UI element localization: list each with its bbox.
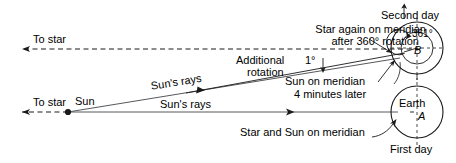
to-star-label-bottom: To star [33,96,66,108]
point-b-label: B [414,44,421,56]
star-and-sun-on-meridian-label: Star and Sun on meridian [240,126,365,138]
rotation-361-label: 361° [412,28,433,40]
sidereal-day-diagram: To star To star Sun Sun's rays Sun's ray… [0,0,456,163]
sun-label: Sun [75,95,95,107]
earth-label: Earth [399,97,425,109]
star-again-on-meridian-line2: after 360° rotation [286,35,419,47]
point-a-label: A [418,110,425,122]
sun-point [65,109,71,115]
additional-rotation-line [186,53,404,93]
earth-first-day-group [391,82,443,146]
to-star-label-top: To star [33,33,66,45]
sun-on-meridian-line2: 4 minutes later [294,88,366,100]
leader-sun-on-meridian [378,60,400,84]
second-day-label: Second day [381,9,439,21]
first-day-label: First day [390,143,432,155]
suns-rays-lower-line [68,109,398,116]
one-degree-label: 1° [305,54,316,66]
leader-star-and-sun [372,119,397,137]
star-again-on-meridian-line1: Star again on meridian [286,23,426,35]
additional-rotation-line1: Additional [236,54,284,66]
additional-rotation-line2: rotation [247,66,284,78]
suns-rays-lower-label: Sun's rays [160,98,211,110]
sun-on-meridian-line1: Sun on meridian [285,75,365,87]
